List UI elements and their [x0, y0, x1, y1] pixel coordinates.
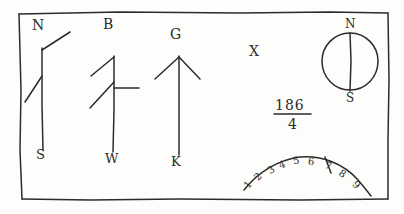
compass-south-label: S [346, 92, 354, 104]
symbol-n-bottom-label: S [36, 148, 45, 161]
symbol-g-top-label: G [170, 27, 181, 41]
symbol-n-top-label: N [32, 18, 44, 32]
symbol-b-lower-barb [90, 82, 114, 108]
arc-digit-6: 6 [308, 157, 315, 167]
x-mark: X [249, 44, 259, 58]
compass-north-label: N [345, 18, 356, 30]
symbol-g-right-barb [179, 57, 200, 79]
symbol-g-left-barb [155, 57, 179, 79]
symbol-b-stem [113, 56, 114, 152]
frame-left-edge [19, 14, 22, 199]
symbol-n-lower-barb [25, 76, 42, 102]
ink-drawing-layer [0, 0, 404, 214]
symbol-n-upper-barb [42, 32, 70, 50]
symbol-g-bottom-label: K [171, 155, 181, 168]
frame-top-edge [19, 12, 388, 14]
sketch-canvas: N B G S W K X N S 186 4 1 2 3 4 5 6 7 8 … [0, 0, 404, 214]
frame-bottom-edge [22, 199, 388, 200]
frame-right-edge [388, 13, 389, 199]
symbol-n-stem [42, 48, 43, 150]
symbol-b-bottom-label: W [105, 152, 118, 165]
symbol-b-upper-barb [91, 57, 114, 76]
fraction-numerator: 186 [275, 98, 305, 112]
symbol-b-top-label: B [103, 17, 113, 31]
compass-needle-line [350, 33, 351, 91]
fraction-denominator: 4 [288, 117, 297, 131]
